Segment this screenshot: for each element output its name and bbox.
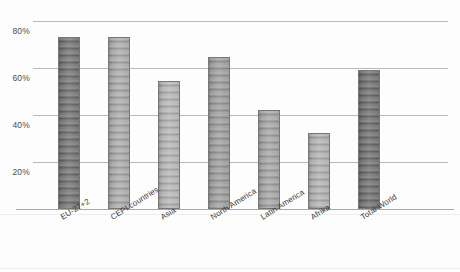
gridline-60 [33, 68, 448, 69]
category-axis [16, 209, 454, 210]
bar-asia [158, 81, 180, 209]
gridline-40 [33, 115, 448, 116]
scan-artifact-top [0, 214, 460, 215]
bar-afrika [308, 133, 330, 209]
bar-cepi-countries [108, 37, 130, 209]
y-tick-label-80: 80% [2, 26, 30, 36]
bar-eu-27-2 [58, 37, 80, 209]
bar-north-america [208, 57, 230, 209]
bar-total-world [358, 70, 380, 209]
bar-chart: 80% 60% 40% 20% EU-27+2CEPI countriesAsi… [0, 0, 460, 272]
gridline-20 [33, 162, 448, 163]
bar-latin-america [258, 110, 280, 209]
y-tick-label-60: 60% [2, 73, 30, 83]
y-tick-label-20: 20% [2, 167, 30, 177]
y-tick-label-40: 40% [2, 120, 30, 130]
gridline-80 [33, 21, 448, 22]
scan-artifact-bottom [0, 268, 460, 269]
